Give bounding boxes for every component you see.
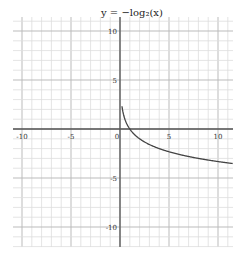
chart-title: y = −log₂(x) [100,7,163,18]
axes [13,17,233,247]
x-tick-label: 5 [167,133,171,141]
y-tick-label: -10 [106,224,117,232]
x-tick-label: 10 [214,133,223,141]
y-tick-label: 5 [113,77,117,85]
grid [13,17,233,247]
x-tick-label: -5 [68,133,75,141]
function-graph: -10-50510105-5-10 y = −log₂(x) [0,0,243,258]
y-tick-label: 10 [108,28,117,36]
x-tick-label: 0 [115,133,119,141]
x-tick-label: -10 [16,133,27,141]
y-tick-label: -5 [110,175,117,183]
